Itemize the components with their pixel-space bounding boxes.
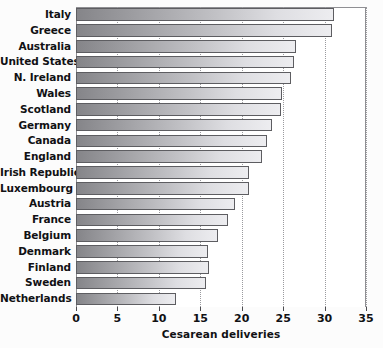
category-label-greece: Greece <box>0 23 71 39</box>
bar-irish-republic <box>76 166 249 179</box>
bar-denmark <box>76 245 208 258</box>
bar-italy <box>76 8 334 21</box>
category-label-united-states: United States <box>0 54 71 70</box>
x-tick-mark-20 <box>242 307 243 311</box>
bar-row: Finland <box>0 260 383 276</box>
x-tick-mark-35 <box>366 307 367 311</box>
bar-row: England <box>0 149 383 165</box>
bar-luxembourg <box>76 182 249 195</box>
category-label-england: England <box>0 149 71 165</box>
x-tick-mark-25 <box>283 307 284 311</box>
x-tick-label-30: 30 <box>310 312 340 325</box>
bar-row: Belgium <box>0 228 383 244</box>
bar-row: Luxembourg <box>0 181 383 197</box>
bar-row: Austria <box>0 196 383 212</box>
bar-n-ireland <box>76 72 291 85</box>
bar-row: Germany <box>0 118 383 134</box>
cesarean-deliveries-bar-chart: ItalyGreeceAustraliaUnited StatesN. Irel… <box>0 0 383 348</box>
category-label-netherlands: Netherlands <box>0 291 71 307</box>
category-label-austria: Austria <box>0 196 71 212</box>
bar-canada <box>76 135 267 148</box>
category-label-n-ireland: N. Ireland <box>0 70 71 86</box>
category-label-belgium: Belgium <box>0 228 71 244</box>
category-label-scotland: Scotland <box>0 102 71 118</box>
bar-row: Irish Republic <box>0 165 383 181</box>
category-label-luxembourg: Luxembourg <box>0 181 71 197</box>
x-tick-mark-15 <box>200 307 201 311</box>
x-tick-label-0: 0 <box>61 312 91 325</box>
bar-row: N. Ireland <box>0 70 383 86</box>
bar-row: Greece <box>0 23 383 39</box>
bar-sweden <box>76 277 206 290</box>
category-label-irish-republic: Irish Republic <box>0 165 71 181</box>
bar-rows-layer: ItalyGreeceAustraliaUnited StatesN. Irel… <box>0 7 383 307</box>
x-tick-label-10: 10 <box>144 312 174 325</box>
bar-row: Netherlands <box>0 291 383 307</box>
category-label-france: France <box>0 212 71 228</box>
bar-row: Australia <box>0 39 383 55</box>
category-label-wales: Wales <box>0 86 71 102</box>
x-tick-label-20: 20 <box>227 312 257 325</box>
x-tick-mark-10 <box>159 307 160 311</box>
bar-austria <box>76 198 235 211</box>
bar-united-states <box>76 56 294 69</box>
x-tick-label-35: 35 <box>351 312 381 325</box>
category-label-denmark: Denmark <box>0 244 71 260</box>
bar-greece <box>76 24 332 37</box>
x-tick-mark-0 <box>76 307 77 311</box>
bar-wales <box>76 87 282 100</box>
bar-finland <box>76 261 209 274</box>
bar-row: United States <box>0 54 383 70</box>
bar-row: Wales <box>0 86 383 102</box>
x-tick-label-25: 25 <box>268 312 298 325</box>
bar-belgium <box>76 229 218 242</box>
bar-england <box>76 150 262 163</box>
category-label-canada: Canada <box>0 133 71 149</box>
bar-row: Canada <box>0 133 383 149</box>
bar-row: Sweden <box>0 275 383 291</box>
bar-row: Denmark <box>0 244 383 260</box>
bar-germany <box>76 119 272 132</box>
bar-row: Italy <box>0 7 383 23</box>
x-tick-mark-5 <box>117 307 118 311</box>
bar-scotland <box>76 103 281 116</box>
category-label-italy: Italy <box>0 7 71 23</box>
category-label-germany: Germany <box>0 118 71 134</box>
bar-row: Scotland <box>0 102 383 118</box>
bar-australia <box>76 40 296 53</box>
x-tick-label-15: 15 <box>185 312 215 325</box>
bar-france <box>76 214 228 227</box>
category-label-sweden: Sweden <box>0 275 71 291</box>
category-label-australia: Australia <box>0 39 71 55</box>
x-tick-mark-30 <box>325 307 326 311</box>
bar-netherlands <box>76 293 176 306</box>
x-tick-label-5: 5 <box>102 312 132 325</box>
category-label-finland: Finland <box>0 260 71 276</box>
bar-row: France <box>0 212 383 228</box>
x-axis-title: Cesarean deliveries <box>76 328 366 340</box>
